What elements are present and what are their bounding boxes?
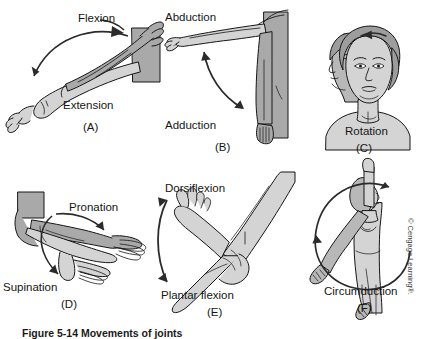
label-adduction: Adduction <box>165 119 216 132</box>
label-rotation: Rotation <box>345 125 388 138</box>
panel-circumduction: Circumduction (F) <box>296 165 443 315</box>
panel-pronation-supination: Pronation Supination (D) <box>0 180 160 305</box>
label-abduction: Abduction <box>165 11 216 24</box>
label-supination: Supination <box>3 281 57 294</box>
panel-letter-b: (B) <box>215 141 230 154</box>
panel-letter-f: (F) <box>357 302 372 315</box>
label-extension: Extension <box>63 99 114 112</box>
figure-caption: Figure 5-14 Movements of joints <box>22 327 182 339</box>
copyright-credit: © Cengage Learning®. <box>406 218 415 295</box>
panel-letter-a: (A) <box>83 121 98 134</box>
panel-letter-e: (E) <box>207 306 222 319</box>
label-dorsiflexion: Dorsiflexion <box>165 182 225 195</box>
panel-rotation: Rotation (C) <box>300 0 443 150</box>
panel-abduction-adduction: Abduction Adduction (B) <box>160 0 300 160</box>
panel-letter-c: (C) <box>356 142 372 155</box>
dorsiflexion-plantarflexion-arrow <box>158 197 167 282</box>
label-pronation: Pronation <box>69 201 118 214</box>
panel-flexion-extension: Flexion Extension (A) <box>0 0 165 140</box>
label-circumduction: Circumduction <box>324 285 398 298</box>
label-flexion: Flexion <box>78 12 115 25</box>
shoulder-abduction-illustration <box>160 0 300 160</box>
panel-letter-d: (D) <box>61 298 77 311</box>
label-plantar-flexion: Plantar flexion <box>161 289 234 302</box>
panel-dorsiflexion-plantarflexion: Dorsiflexion Plantar flexion (E) <box>145 170 295 315</box>
abduction-adduction-arrow <box>201 52 244 109</box>
